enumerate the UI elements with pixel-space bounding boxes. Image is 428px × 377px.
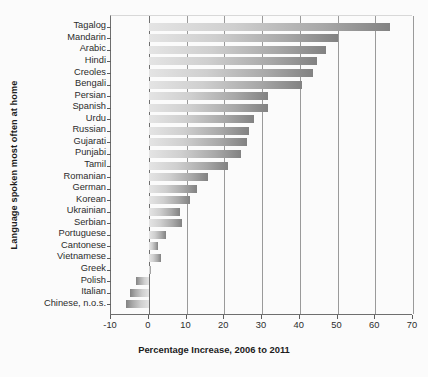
bar <box>130 289 148 297</box>
bar <box>149 185 197 193</box>
bar-chart: Language spoken most often at home Tagal… <box>0 0 428 377</box>
y-tick-18 <box>107 235 111 236</box>
bar <box>149 138 247 146</box>
bar <box>149 104 268 112</box>
x-tick-label-30: 30 <box>256 320 266 330</box>
bar <box>149 196 190 204</box>
x-tick-label-20: 20 <box>218 320 228 330</box>
y-tick-14 <box>107 189 111 190</box>
bar <box>149 127 249 135</box>
x-tick-10 <box>186 315 187 319</box>
category-label-list: TagalogMandarinArabicHindiCreolesBengali… <box>26 15 108 314</box>
bar <box>149 81 302 89</box>
x-tick-label-60: 60 <box>369 320 379 330</box>
x-tick-30 <box>261 315 262 319</box>
y-tick-21 <box>107 270 111 271</box>
gridline-50 <box>338 16 339 314</box>
y-tick-7 <box>107 108 111 109</box>
x-tick-50 <box>337 315 338 319</box>
bar <box>149 69 313 77</box>
x-tick-70 <box>412 315 413 319</box>
y-tick-13 <box>107 177 111 178</box>
x-tick-0 <box>148 315 149 319</box>
bar <box>149 92 268 100</box>
bar <box>149 208 180 216</box>
y-tick-5 <box>107 85 111 86</box>
category-label: Chinese, n.o.s. <box>44 297 106 310</box>
bar <box>149 219 182 227</box>
y-tick-1 <box>107 38 111 39</box>
y-tick-6 <box>107 96 111 97</box>
bar <box>136 277 149 285</box>
bar <box>149 34 338 42</box>
y-tick-19 <box>107 246 111 247</box>
bar <box>149 162 228 170</box>
y-tick-9 <box>107 131 111 132</box>
y-tick-0 <box>107 27 111 28</box>
x-tick-label-0: 0 <box>145 320 150 330</box>
x-tick-label-50: 50 <box>331 320 341 330</box>
y-tick-12 <box>107 166 111 167</box>
bar <box>149 115 255 123</box>
gridline-70 <box>413 16 414 314</box>
x-tick-label-70: 70 <box>407 320 417 330</box>
y-tick-8 <box>107 119 111 120</box>
plot-area <box>110 15 412 314</box>
y-tick-4 <box>107 73 111 74</box>
x-axis-title: Percentage Increase, 2006 to 2011 <box>0 344 428 355</box>
x-tick-label--10: -10 <box>103 320 116 330</box>
y-tick-2 <box>107 50 111 51</box>
x-tick-label-40: 40 <box>294 320 304 330</box>
y-tick-20 <box>107 258 111 259</box>
y-tick-10 <box>107 142 111 143</box>
bar <box>149 231 167 239</box>
y-tick-16 <box>107 212 111 213</box>
bar <box>149 150 241 158</box>
x-tick-40 <box>299 315 300 319</box>
bar <box>126 300 149 308</box>
y-axis-title: Language spoken most often at home <box>0 0 28 330</box>
bar <box>149 173 208 181</box>
bar <box>149 46 326 54</box>
x-tick--10 <box>110 315 111 319</box>
y-tick-15 <box>107 200 111 201</box>
x-tick-label-10: 10 <box>180 320 190 330</box>
y-tick-22 <box>107 281 111 282</box>
y-tick-24 <box>107 304 111 305</box>
bar <box>149 266 152 274</box>
bar <box>149 242 158 250</box>
x-tick-20 <box>223 315 224 319</box>
y-tick-3 <box>107 61 111 62</box>
y-tick-17 <box>107 223 111 224</box>
bar <box>149 254 161 262</box>
y-axis-title-text: Language spoken most often at home <box>9 81 19 250</box>
bar <box>149 23 391 31</box>
y-tick-11 <box>107 154 111 155</box>
x-tick-60 <box>374 315 375 319</box>
bar <box>149 57 317 65</box>
y-tick-23 <box>107 293 111 294</box>
gridline-60 <box>375 16 376 314</box>
